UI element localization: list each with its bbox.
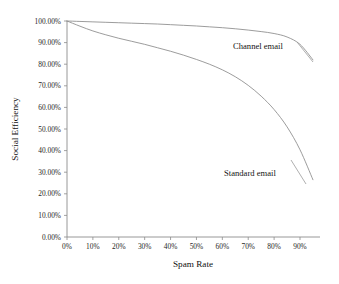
x-tick-label: 90% (293, 242, 307, 251)
y-tick-label: 70.00% (38, 81, 61, 90)
x-tick-label: 80% (267, 242, 281, 251)
y-tick-label: 100.00% (35, 17, 61, 26)
series-label-channel-email: Channel email (233, 41, 283, 51)
y-tick-label: 80.00% (38, 60, 61, 69)
x-axis-tick-labels: 0%10%20%30%40%50%60%70%80%90% (62, 242, 307, 251)
y-tick-label: 60.00% (38, 103, 61, 112)
y-tick-label: 30.00% (38, 168, 61, 177)
chart-canvas: 0.00%10.00%20.00%30.00%40.00%50.00%60.00… (0, 0, 339, 284)
x-axis-title: Spam Rate (173, 259, 213, 269)
y-tick-label: 10.00% (38, 211, 61, 220)
series-label-standard-email: Standard email (224, 168, 276, 178)
y-axis-tick-labels: 0.00%10.00%20.00%30.00%40.00%50.00%60.00… (35, 17, 61, 242)
channel-email-leader-line (297, 42, 313, 62)
y-tick-label: 20.00% (38, 189, 61, 198)
x-tick-label: 0% (62, 242, 72, 251)
y-tick-label: 50.00% (38, 125, 61, 134)
x-tick-label: 60% (216, 242, 230, 251)
y-tick-label: 0.00% (42, 233, 61, 242)
x-tick-label: 20% (112, 242, 126, 251)
x-tick-label: 50% (190, 242, 204, 251)
y-axis-title: Social Efficiency (10, 97, 20, 161)
x-tick-label: 10% (86, 242, 100, 251)
x-tick-label: 40% (164, 242, 178, 251)
y-tick-label: 90.00% (38, 38, 61, 47)
x-tick-label: 70% (241, 242, 255, 251)
chart-container: 0.00%10.00%20.00%30.00%40.00%50.00%60.00… (0, 0, 339, 284)
x-tick-label: 30% (138, 242, 152, 251)
y-tick-label: 40.00% (38, 146, 61, 155)
standard-email-leader-line (291, 160, 306, 184)
